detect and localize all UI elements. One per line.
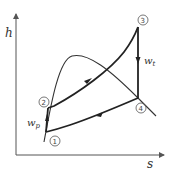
state-4: 4 bbox=[136, 103, 146, 113]
saturation-dome bbox=[44, 55, 156, 142]
state-1: 1 bbox=[50, 136, 60, 146]
y-axis-label: h bbox=[5, 26, 13, 40]
svg-text:2: 2 bbox=[42, 99, 46, 107]
svg-text:1: 1 bbox=[53, 138, 57, 146]
turbine-arrow-icon bbox=[136, 57, 141, 64]
svg-text:4: 4 bbox=[139, 105, 144, 113]
state-2: 2 bbox=[39, 97, 49, 107]
svg-text:3: 3 bbox=[141, 17, 145, 25]
state-3: 3 bbox=[138, 15, 148, 25]
hs-diagram: h s 1 2 3 4 wp wt bbox=[0, 0, 173, 175]
x-axis-label: s bbox=[147, 157, 153, 171]
turbine-work-label: wt bbox=[144, 55, 156, 68]
process-heating-2-3 bbox=[48, 27, 138, 108]
pump-work-label: wp bbox=[27, 117, 41, 130]
